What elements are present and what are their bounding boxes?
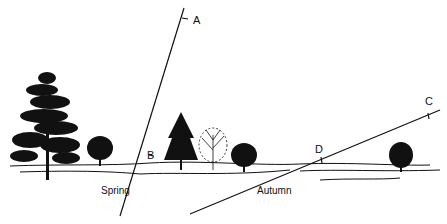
label-c: C [425, 96, 433, 107]
round-tree-right [389, 142, 413, 172]
label-d: D [315, 144, 323, 155]
label-b: B [147, 150, 154, 161]
ground-lines [10, 162, 440, 180]
label-autumn: Autumn [257, 186, 291, 196]
spring-line [120, 8, 188, 216]
landscape-drawing [0, 0, 447, 224]
round-tree-left [87, 136, 113, 166]
label-spring: Spring [101, 186, 130, 196]
bare-tree [199, 128, 227, 170]
round-tree-center [231, 143, 257, 172]
pine-tree [10, 72, 80, 180]
label-a: A [193, 15, 200, 26]
conifer-tree [164, 112, 198, 170]
landscape-diagram: A B C D Spring Autumn [0, 0, 447, 224]
